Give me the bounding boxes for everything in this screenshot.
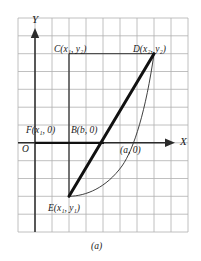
point-label-E: E(x₁, y₁): [48, 204, 80, 214]
origin-label: O: [22, 145, 29, 155]
point-label-C: C(x₁, y₂): [54, 45, 86, 55]
y-axis-label: Y: [32, 14, 38, 25]
figure-container: Y X O C(x₁, y₂) D(x₂, y₂) F(x₁, 0) B(b, …: [0, 0, 201, 261]
point-label-D: D(x₂, y₂): [133, 45, 166, 55]
point-label-F: F(x₁, 0): [26, 126, 55, 136]
x-axis-label: X: [180, 136, 187, 147]
figure-caption: (a): [91, 242, 102, 252]
point-label-a: (a, 0): [120, 146, 141, 156]
point-label-B: B(b, 0): [71, 126, 97, 136]
